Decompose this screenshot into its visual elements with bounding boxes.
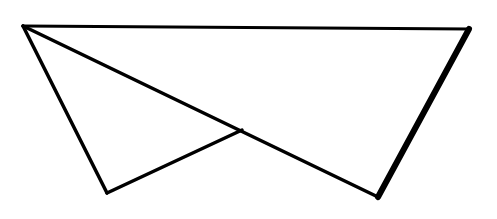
right-edge-line (378, 29, 469, 197)
long-diagonal-line (23, 26, 378, 197)
top-edge-line (23, 26, 469, 29)
figure-svg (0, 0, 497, 219)
left-edge-line (23, 26, 107, 193)
short-segment-line (107, 130, 242, 193)
geometric-figure (0, 0, 497, 219)
